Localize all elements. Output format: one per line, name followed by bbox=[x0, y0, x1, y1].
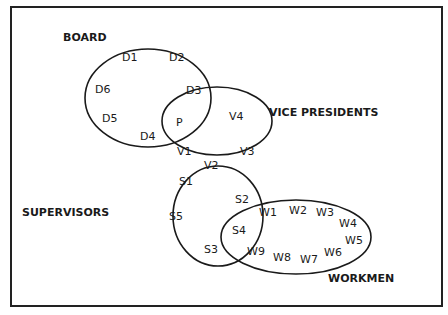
group-label-vice-presidents: VICE PRESIDENTS bbox=[269, 106, 378, 119]
diagram-frame bbox=[11, 7, 442, 306]
group-label-board: BOARD bbox=[63, 31, 107, 44]
node-d6: D6 bbox=[95, 83, 110, 96]
node-d2: D2 bbox=[169, 51, 184, 64]
node-v2: V2 bbox=[204, 159, 219, 172]
node-w2: W2 bbox=[289, 204, 307, 217]
node-w6: W6 bbox=[324, 246, 342, 259]
node-w8: W8 bbox=[273, 251, 291, 264]
node-s3: S3 bbox=[204, 243, 218, 256]
node-v4: V4 bbox=[229, 110, 244, 123]
node-s2: S2 bbox=[235, 193, 249, 206]
node-s5: S5 bbox=[169, 210, 183, 223]
node-w5: W5 bbox=[345, 234, 363, 247]
node-w7: W7 bbox=[300, 253, 318, 266]
node-s1: S1 bbox=[179, 175, 193, 188]
group-label-supervisors: SUPERVISORS bbox=[22, 206, 109, 219]
node-d4: D4 bbox=[140, 130, 155, 143]
node-s4: S4 bbox=[232, 224, 246, 237]
node-w3: W3 bbox=[316, 206, 334, 219]
node-w4: W4 bbox=[339, 217, 357, 230]
node-v3: V3 bbox=[240, 145, 255, 158]
node-d5: D5 bbox=[102, 112, 117, 125]
node-v1: V1 bbox=[177, 145, 192, 158]
node-w1: W1 bbox=[259, 206, 277, 219]
node-d1: D1 bbox=[122, 51, 137, 64]
node-d3: D3 bbox=[186, 84, 201, 97]
node-w9: W9 bbox=[247, 245, 265, 258]
venn-diagram: BOARD VICE PRESIDENTS SUPERVISORS WORKME… bbox=[0, 0, 448, 315]
group-label-workmen: WORKMEN bbox=[328, 272, 394, 285]
node-p: P bbox=[176, 116, 183, 129]
